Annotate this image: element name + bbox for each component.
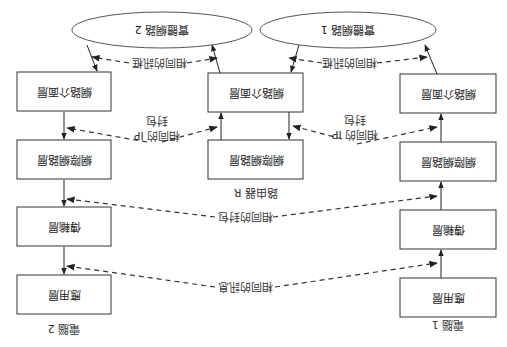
computer-1-stack: 電腦 1 應用層 傳輸層 網際網路層 網路介面層 (400, 45, 496, 332)
router-r-label: 路由器 R (234, 186, 278, 200)
peer-frame-link-2: 相同的訊框 (92, 56, 217, 70)
computer-1-transport-layer-label: 傳輸層 (432, 223, 465, 237)
computer-1-network-interface-layer-label: 網路介面層 (421, 87, 476, 101)
computer-1-label: 電腦 1 (432, 318, 465, 332)
frame-label-1: 相同的訊框 (322, 56, 377, 70)
physical-network-2: 實體網路 2 (72, 12, 252, 48)
computer-1-internet-layer-label: 網際網路層 (421, 155, 476, 169)
computer-2-internet-layer-label: 網際網路層 (37, 153, 92, 167)
peer-frame-link-1: 相同的訊框 (289, 56, 427, 70)
computer-2-application-layer-label: 應用層 (48, 288, 81, 302)
computer-2-transport-layer-label: 傳輸層 (48, 220, 81, 234)
peer-ip-packet-link-1: 相同的 IP 封包 (293, 113, 437, 144)
peer-ip-packet-link-2: 相同的 IP 封包 (67, 114, 217, 143)
ip-packet-label-2-line2: 封包 (146, 114, 168, 128)
tcpip-layer-diagram: 電腦 1 應用層 傳輸層 網際網路層 網路介面層 路由器 R 網際網路層 網路介… (0, 0, 507, 347)
frame-dash-arrow-c2 (92, 57, 129, 63)
ip-packet-label-1-line1: 相同的 IP (331, 128, 378, 142)
router-internet-layer-label: 網際網路層 (229, 153, 284, 167)
router-network-interface-layer-label: 網路介面層 (229, 86, 284, 100)
physical-network-2-label: 實體網路 2 (135, 23, 190, 37)
computer-2-stack: 電腦 2 應用層 傳輸層 網際網路層 網路介面層 (17, 45, 111, 336)
router-down-arrow-2 (212, 45, 220, 73)
frame-dash-arrow-router-right (187, 58, 217, 63)
ip-packet-label-2-line1: 相同的 IP (133, 129, 180, 143)
frame-label-2: 相同的訊框 (132, 56, 187, 70)
peer-packet-link: 相同的封包 (67, 196, 437, 224)
peer-packet-label: 相同的封包 (218, 210, 273, 224)
net2-to-c2-arrow (87, 45, 97, 71)
computer-2-label: 電腦 2 (48, 322, 81, 336)
peer-message-label: 相同的訊息 (218, 280, 273, 294)
physical-network-1: 實體網路 1 (260, 12, 436, 48)
router-r-stack: 路由器 R 網際網路層 網路介面層 (208, 45, 303, 200)
ip-packet-label-1-line2: 封包 (344, 113, 366, 127)
physical-network-1-label: 實體網路 1 (321, 23, 376, 37)
frame-dash-arrow-c1 (377, 57, 427, 63)
computer-2-network-interface-layer-label: 網路介面層 (37, 85, 92, 99)
computer-1-application-layer-label: 應用層 (432, 291, 465, 305)
peer-message-link: 相同的訊息 (67, 263, 437, 294)
c1-to-net1-arrow (425, 45, 437, 74)
